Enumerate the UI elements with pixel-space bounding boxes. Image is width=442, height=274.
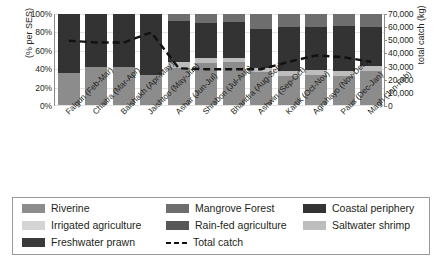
legend-item[interactable]: Freshwater prawn (22, 236, 135, 248)
tick-mark (384, 67, 387, 68)
y-tick-label-left: 100% (31, 10, 52, 19)
y-tick-label-left: 80% (35, 28, 52, 37)
legend-swatch-icon (22, 204, 45, 213)
legend-label: Saltwater shrimp (332, 219, 410, 231)
y-tick-label-left: 40% (35, 65, 52, 74)
legend-dashed-line-icon (166, 238, 189, 247)
legend-item[interactable]: Riverine (22, 202, 90, 214)
legend-item[interactable]: Total catch (166, 236, 243, 248)
total-catch-path (69, 32, 372, 69)
x-axis-labels: Falgun (Feb-Mar)Chaitra (Mar-Apr)Baishak… (0, 108, 442, 196)
chart-legend: RiverineMangrove ForestCoastal periphery… (12, 197, 430, 255)
legend-item[interactable]: Mangrove Forest (166, 202, 274, 214)
chart-figure: (% per SES) total catch (kg) 100%80%60%4… (0, 0, 442, 274)
legend-label: Rain-fed agriculture (195, 219, 287, 231)
legend-item[interactable]: Irrigated agriculture (22, 219, 141, 231)
legend-label: Irrigated agriculture (51, 219, 141, 231)
y-tick-label-right: 50,000 (388, 36, 413, 45)
y-tick-label-left: 20% (35, 84, 52, 93)
tick-mark (384, 53, 387, 54)
tick-mark (384, 93, 387, 94)
legend-swatch-icon (22, 221, 45, 230)
tick-mark (384, 106, 387, 107)
y-axis-title-right: total catch (kg) (416, 0, 426, 75)
y-tick-label-right: 60,000 (388, 23, 413, 32)
legend-label: Coastal periphery (332, 202, 414, 214)
legend-label: Riverine (51, 202, 90, 214)
legend-item[interactable]: Coastal periphery (303, 202, 414, 214)
legend-swatch-icon (22, 238, 45, 247)
legend-swatch-icon (166, 204, 189, 213)
tick-mark (384, 14, 387, 15)
legend-items: RiverineMangrove ForestCoastal periphery… (13, 198, 429, 254)
legend-swatch-icon (303, 221, 326, 230)
y-tick-label-right: 70,000 (388, 10, 413, 19)
legend-label: Freshwater prawn (51, 236, 135, 248)
tick-mark (384, 27, 387, 28)
tick-mark (384, 40, 387, 41)
legend-label: Mangrove Forest (195, 202, 274, 214)
y-tick-label-right: 30,000 (388, 63, 413, 72)
legend-label: Total catch (193, 236, 243, 248)
tick-mark (384, 80, 387, 81)
legend-swatch-icon (303, 204, 326, 213)
legend-item[interactable]: Rain-fed agriculture (166, 219, 287, 231)
legend-swatch-icon (166, 221, 189, 230)
legend-item[interactable]: Saltwater shrimp (303, 219, 410, 231)
y-tick-label-left: 60% (35, 47, 52, 56)
y-tick-label-right: 40,000 (388, 49, 413, 58)
